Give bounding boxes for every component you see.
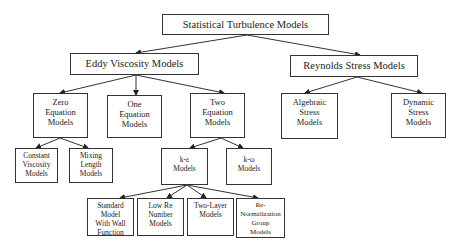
node-label: Algebraic Stress Models bbox=[293, 97, 327, 127]
arrow-reynolds-to-dynamic bbox=[357, 77, 422, 93]
node-label: Statistical Turbulence Models bbox=[183, 19, 308, 31]
node-label: One Equation Models bbox=[119, 99, 150, 129]
node-label: Mixing Length Models bbox=[80, 151, 103, 178]
arrow-reynolds-to-algebraic bbox=[305, 77, 357, 93]
node-eddy-viscosity-models: Eddy Viscosity Models bbox=[70, 53, 199, 75]
node-low-re-number-models: Low Re Number Models bbox=[137, 198, 184, 236]
node-label: Eddy Viscosity Models bbox=[86, 58, 184, 70]
node-algebraic-stress-models: Algebraic Stress Models bbox=[281, 93, 338, 139]
node-label: k-ε Models bbox=[173, 155, 196, 173]
node-zero-equation-models: Zero Equation Models bbox=[33, 93, 88, 138]
node-label: Standard Model With Wall Function bbox=[95, 201, 125, 237]
node-label: Low Re Number Models bbox=[148, 201, 173, 228]
node-label: Two Equation Models bbox=[202, 97, 233, 127]
arrow-eddy-to-two bbox=[136, 75, 224, 93]
arrow-eddy-to-zero bbox=[60, 75, 136, 93]
arrow-root-to-reynolds bbox=[247, 35, 360, 55]
arrow-zero-to-mixing bbox=[60, 138, 88, 148]
node-dynamic-stress-models: Dynamic Stress Models bbox=[391, 93, 446, 138]
node-k-epsilon-models: k-ε Models bbox=[161, 148, 208, 185]
node-label: Reynolds Stress Models bbox=[303, 60, 405, 72]
node-one-equation-models: One Equation Models bbox=[107, 95, 162, 138]
arrow-root-to-eddy bbox=[136, 35, 247, 53]
node-label: Two-Layer Models bbox=[194, 201, 227, 219]
node-label: Re- Normalization Group Models bbox=[240, 201, 280, 237]
node-two-layer-models: Two-Layer Models bbox=[187, 198, 234, 236]
node-label: Constant Viscosity Models bbox=[23, 151, 51, 178]
node-label: Zero Equation Models bbox=[45, 97, 76, 127]
arrow-keps-to-renorm bbox=[187, 185, 258, 198]
arrow-two-to-keps bbox=[190, 138, 221, 148]
node-reynolds-stress-models: Reynolds Stress Models bbox=[290, 55, 418, 77]
node-label: Dynamic Stress Models bbox=[403, 97, 434, 127]
node-standard-model-with-wall-function: Standard Model With Wall Function bbox=[87, 198, 134, 236]
node-two-equation-models: Two Equation Models bbox=[190, 93, 245, 138]
node-statistical-turbulence-models: Statistical Turbulence Models bbox=[162, 14, 329, 35]
node-k-omega-models: k-ω Models bbox=[226, 148, 272, 185]
arrow-two-to-komega bbox=[221, 138, 243, 148]
node-mixing-length-models: Mixing Length Models bbox=[69, 148, 113, 183]
node-label: k-ω Models bbox=[238, 155, 261, 173]
node-re-normalization-group-models: Re- Normalization Group Models bbox=[236, 198, 285, 238]
node-constant-viscosity-models: Constant Viscosity Models bbox=[15, 148, 58, 183]
turbulence-model-hierarchy-diagram: Statistical Turbulence Models Eddy Visco… bbox=[0, 0, 457, 248]
arrow-zero-to-constant bbox=[36, 138, 60, 148]
